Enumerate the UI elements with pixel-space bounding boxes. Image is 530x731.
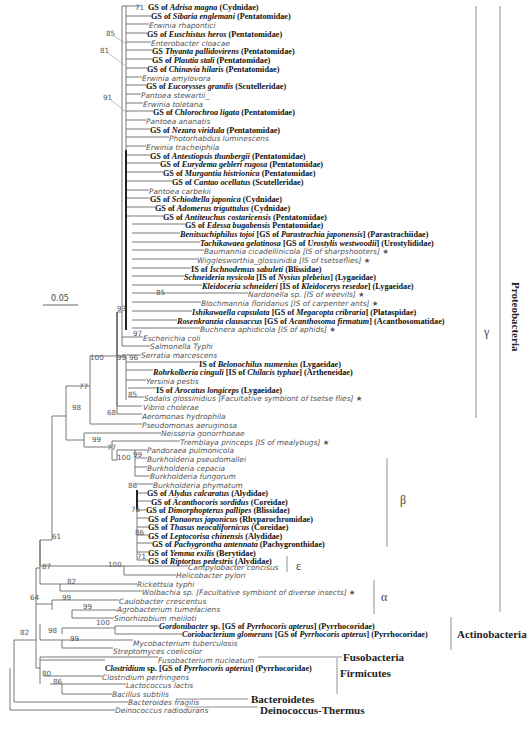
bootstrap-value: 99 xyxy=(133,451,142,459)
label-text: ] (Pyrrhocoridae) xyxy=(251,664,312,673)
bootstrap-value: 76 xyxy=(131,506,140,514)
bootstrap-value: 86 xyxy=(128,482,137,490)
bootstrap-value: 77 xyxy=(107,444,116,452)
bootstrap-value: 99 xyxy=(83,603,92,611)
reference-leaf-label: Yersinia pestis xyxy=(146,377,199,386)
bootstrap-value: 71 xyxy=(135,4,144,12)
group-label-fusobacteria: Fusobacteria xyxy=(343,651,404,663)
reference-leaf-label: Photorhabdus luminescens xyxy=(169,134,269,143)
symbiont-leaf-label: Rohrkolberia cinguli [IS of Chilacis typ… xyxy=(153,368,353,377)
group-label-deinococcus: Deinococcus-Thermus xyxy=(260,704,365,716)
species-name: Megacopta cribraria xyxy=(296,308,365,317)
label-text: (Cydnidae) xyxy=(249,204,290,213)
species-name: Edessa bugabensis xyxy=(207,221,270,230)
label-text: ] (Plataspidae) xyxy=(366,308,417,317)
label-text: [GS of xyxy=(254,230,281,239)
scale-bar-label: 0.05 xyxy=(51,294,69,303)
reference-leaf-label: Wigglesworthia_glossinidia [IS of tsetse… xyxy=(197,256,370,265)
symbiont-leaf-label: GS of Plautia stali (Pentatomidae) xyxy=(152,56,270,65)
label-text: GS of xyxy=(151,12,173,21)
reference-leaf-label: Erwinia rhapontici xyxy=(149,21,216,30)
label-text: GS of xyxy=(148,3,170,12)
group-label-proteobacteria: Proteobacteria xyxy=(510,282,522,351)
species-name: Pyrrhocoris apterus xyxy=(299,630,366,639)
label-text: ] (Lygaeidae) xyxy=(330,273,376,282)
reference-leaf-label: Deinococcus radiodurans xyxy=(115,706,208,715)
label-text: GS of xyxy=(185,221,207,230)
label-text: (Cydnidae) xyxy=(217,3,258,12)
bootstrap-value: 82 xyxy=(20,629,29,637)
symbiont-leaf-label: GS of Adomerus triguttulus (Cydnidae) xyxy=(155,204,290,213)
bootstrap-value: 93 xyxy=(117,305,126,313)
label-text: GS of xyxy=(163,213,185,222)
reference-leaf-label: Sodalis glossinidius [Facultative symbio… xyxy=(144,394,362,403)
species-name: Thasus neocalifornicus xyxy=(170,523,249,532)
bootstrap-value: 64 xyxy=(30,594,39,602)
bootstrap-value: 85 xyxy=(128,391,137,399)
bootstrap-value: 100 xyxy=(96,619,110,627)
symbiont-leaf-label: GS of Adrisa magna (Cydnidae) xyxy=(148,3,259,12)
species-name: Nysius plebeius xyxy=(278,273,331,282)
label-text: (Alydidae) xyxy=(229,489,268,498)
reference-leaf-label: Baumannia cicadellinicola [IS of sharpsh… xyxy=(204,247,389,256)
label-text: sp. [GS of xyxy=(145,664,183,673)
symbiont-leaf-label: Clostridium sp. [GS of Pyrrhocoris apter… xyxy=(105,664,312,673)
label-text: GS of xyxy=(153,108,175,117)
species-name: Plautia stali xyxy=(174,56,215,65)
phylogenetic-tree-figure: 0.05 GS of Adrisa magna (Cydnidae)GS of … xyxy=(0,0,530,731)
species-name: Alydus calcaratus xyxy=(169,489,229,498)
species-name: Clostridium xyxy=(105,664,145,673)
symbiont-leaf-label: Benitsuchiphilus tojoi [GS of Parastrach… xyxy=(180,230,428,239)
species-name: Pachygrontha antennata xyxy=(174,540,258,549)
label-text: (Pentatomidae) xyxy=(267,160,323,169)
species-name: Chilacis typhae xyxy=(247,368,299,377)
group-label-gamma: γ xyxy=(484,325,489,340)
species-name: Chlorochroa ligata xyxy=(175,108,239,117)
symbiont-leaf-label: GS of Chinavia hilaris (Pentatomidae) xyxy=(147,65,279,74)
species-name: Adrisa magna xyxy=(170,3,218,12)
label-text: (Pentatomidae) xyxy=(260,169,316,178)
bootstrap-value: 98 xyxy=(72,404,81,412)
label-text: GS of xyxy=(147,65,169,74)
species-name: Benitsuchiphilus tojoi xyxy=(180,230,254,239)
label-text: (Pentatomidae) xyxy=(226,30,282,39)
symbiont-leaf-label: GS of Euschistus heros (Pentatomidae) xyxy=(147,30,282,39)
symbiont-leaf-label: GS of Cantao ocellatus (Scutelleridae) xyxy=(172,178,303,187)
label-text: GS xyxy=(152,47,165,56)
bootstrap-value: 81 xyxy=(100,47,109,55)
bootstrap-value: 99 xyxy=(117,354,126,362)
symbiont-leaf-label: GS of Sibaria englemani (Pentatomidae) xyxy=(151,12,291,21)
reference-leaf-label: Pantoea stewartii_ xyxy=(141,91,209,100)
species-name: Ishikawaella capsulata xyxy=(192,308,270,317)
reference-leaf-label: Vibrio cholerae xyxy=(143,403,199,412)
reference-leaf-label: Erwinia tracheiphila xyxy=(146,143,219,152)
symbiont-leaf-label: GS of Pachygrontha antennata (Pachygront… xyxy=(152,540,325,549)
label-text: Pentatomidae) xyxy=(270,221,323,230)
label-text: GS of xyxy=(148,523,170,532)
species-name: Pyrrhocoris apterus xyxy=(184,664,251,673)
bootstrap-value: 86 xyxy=(135,529,144,537)
symbiont-leaf-label: GS of Chlorochroa ligata (Pentatomidae) xyxy=(153,108,295,117)
reference-leaf-label: Burkholderia fungorum xyxy=(150,472,236,481)
symbiont-leaf-label: GS of Thasus neocalifornicus (Coreidae) xyxy=(148,523,288,532)
species-name: Coriobacterium glomerans xyxy=(182,630,273,639)
reference-leaf-label: Helicobacter pylori xyxy=(176,571,246,580)
reference-leaf-label: Aeromonas hydrophila xyxy=(142,412,226,421)
reference-leaf-label: Neisseria gonorrhoeae xyxy=(161,429,245,438)
symbiont-leaf-label: GS of Eucorysses grandis (Scutelleridae) xyxy=(146,82,286,91)
symbiont-leaf-label: GS of Eurydema gebleri rugosa (Pentatomi… xyxy=(160,160,323,169)
label-text: GS of xyxy=(147,30,169,39)
species-name: Schiodtella japonica xyxy=(172,195,241,204)
label-text: GS of xyxy=(163,169,185,178)
bootstrap-value: 98 xyxy=(48,627,57,635)
label-text: GS of xyxy=(152,56,174,65)
label-text: [GS of xyxy=(270,308,297,317)
bootstrap-value: 100 xyxy=(90,354,104,362)
symbiont-leaf-label: Ishikawaella capsulata [GS of Megacopta … xyxy=(192,308,416,317)
label-text: GS of xyxy=(146,82,168,91)
species-name: Adomerus triguttulus xyxy=(177,204,249,213)
bootstrap-value: 85 xyxy=(106,30,115,38)
bootstrap-value: 99 xyxy=(70,635,79,643)
bootstrap-value: 99 xyxy=(62,594,71,602)
group-label-epsilon: ε xyxy=(296,559,301,574)
